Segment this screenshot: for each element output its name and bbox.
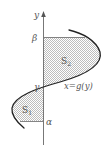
y-axis-arrow-icon (41, 11, 46, 17)
gamma-label: γ (34, 82, 40, 92)
area-diagram: y β γ α x=g(y) S2 S1 (0, 0, 108, 149)
region-s2-shade (43, 37, 100, 87)
y-axis-label: y (33, 10, 40, 20)
beta-label: β (31, 33, 37, 43)
curve-label: x=g(y) (64, 81, 93, 91)
alpha-label: α (46, 117, 52, 127)
